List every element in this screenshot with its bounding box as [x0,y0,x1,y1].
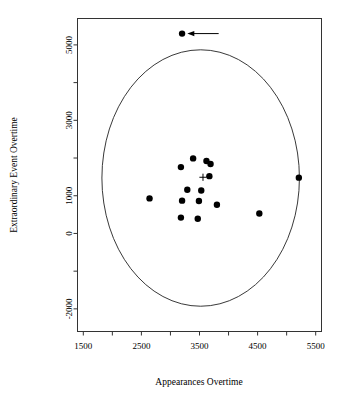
x-tick-label: 3500 [191,341,210,351]
data-point [296,174,302,180]
y-tick-label: -2000 [64,298,74,319]
figure-background [0,0,343,406]
plot-canvas: 15002500350045005500 -20000100030005000 … [0,0,343,406]
data-point [207,161,213,167]
scatter-plot-figure: 15002500350045005500 -20000100030005000 … [0,0,343,406]
data-point [178,214,184,220]
data-point [184,187,190,193]
data-point [178,164,184,170]
data-point [179,197,185,203]
data-point [195,216,201,222]
data-point [179,30,185,36]
x-tick-label: 2500 [132,341,151,351]
y-axis-title: Extraordinary Event Overtime [9,117,19,233]
x-axis-title: Appearances Overtime [155,377,242,387]
x-tick-label: 5500 [307,341,326,351]
data-point [214,202,220,208]
x-tick-label: 1500 [74,341,93,351]
y-tick-label: 0 [64,231,74,236]
data-point [256,210,262,216]
data-point [196,198,202,204]
x-tick-label: 4500 [249,341,268,351]
data-point [190,155,196,161]
data-point [198,187,204,193]
data-point [206,173,212,179]
y-tick-label: 3000 [64,111,74,130]
y-tick-label: 5000 [64,35,74,54]
data-point [146,195,152,201]
y-tick-label: 1000 [64,186,74,205]
